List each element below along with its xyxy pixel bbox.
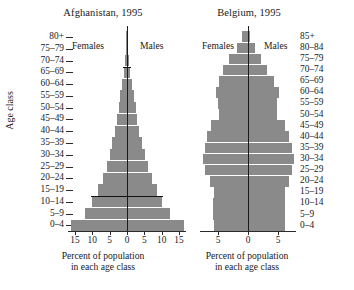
series-label-males-belgium: Males bbox=[264, 41, 287, 51]
x-axis-caption-line1-belgium: Percent of population bbox=[160, 250, 334, 262]
age-class-label: 65–69 bbox=[41, 67, 64, 76]
bar-males bbox=[127, 173, 152, 184]
x-axis-tick-label: 0 bbox=[238, 236, 258, 245]
age-class-label: 60–64 bbox=[41, 79, 64, 88]
bar-males bbox=[248, 98, 277, 109]
bar-males bbox=[127, 114, 137, 125]
bar-males bbox=[127, 126, 139, 137]
y-axis-label: Age class bbox=[4, 81, 15, 141]
bar-males bbox=[248, 209, 285, 220]
bar-females bbox=[107, 161, 127, 172]
bar-females bbox=[213, 198, 248, 209]
bar-females bbox=[119, 102, 127, 113]
age-class-label: 45–49 bbox=[41, 114, 64, 123]
plot-area-belgium: 505 bbox=[200, 26, 296, 232]
bar-females bbox=[219, 76, 248, 87]
series-label-males-afghanistan: Males bbox=[140, 41, 163, 51]
x-axis-caption-line2-belgium: in each age class bbox=[160, 261, 334, 273]
age-class-label: 35–39 bbox=[41, 138, 64, 147]
age-class-label: 30–34 bbox=[300, 154, 323, 163]
bar-males bbox=[248, 143, 292, 154]
age-class-label: 25–29 bbox=[300, 165, 323, 174]
age-class-label: 30–34 bbox=[41, 150, 64, 159]
age-class-label: 15–19 bbox=[41, 185, 64, 194]
age-class-label: 5–9 bbox=[300, 210, 314, 219]
bar-females bbox=[117, 114, 127, 125]
bar-males bbox=[248, 198, 285, 209]
bar-males bbox=[127, 184, 157, 195]
bar-females bbox=[213, 209, 248, 220]
bar-females bbox=[205, 165, 248, 176]
bar-males bbox=[248, 65, 267, 76]
age-class-label: 75–79 bbox=[300, 54, 323, 63]
age-class-label: 85+ bbox=[300, 32, 315, 41]
age-class-label: 5–9 bbox=[50, 209, 64, 218]
bar-females bbox=[218, 98, 248, 109]
bar-males bbox=[248, 187, 285, 198]
chart-title-belgium: Belgium, 1995 bbox=[162, 7, 336, 18]
bar-males bbox=[127, 137, 142, 148]
age-class-label: 20–24 bbox=[300, 176, 323, 185]
bar-females bbox=[115, 126, 127, 137]
bar-females bbox=[98, 184, 127, 195]
chart-panel-afghanistan: Afghanistan, 1995 Age class 0–45–910–141… bbox=[0, 0, 190, 290]
bar-females bbox=[216, 87, 248, 98]
age-class-label: 10–14 bbox=[41, 197, 64, 206]
bar-males bbox=[127, 196, 162, 207]
bar-females bbox=[210, 176, 248, 187]
bar-females bbox=[219, 109, 248, 120]
age-class-label: 55–59 bbox=[300, 98, 323, 107]
age-class-label: 75–79 bbox=[41, 44, 64, 53]
age-class-label: 25–29 bbox=[41, 162, 64, 171]
bar-males bbox=[127, 149, 145, 160]
age-class-label: 60–64 bbox=[300, 87, 323, 96]
bar-females bbox=[110, 149, 127, 160]
age-class-label: 0–4 bbox=[300, 221, 314, 230]
age-class-label: 45–49 bbox=[300, 121, 323, 130]
age-class-label: 55–59 bbox=[41, 91, 64, 100]
age-class-label: 20–24 bbox=[41, 173, 64, 182]
bar-males bbox=[248, 120, 285, 131]
bar-females bbox=[211, 120, 248, 131]
bar-females bbox=[71, 220, 127, 231]
age-class-label: 65–69 bbox=[300, 76, 323, 85]
bar-females bbox=[223, 65, 248, 76]
age-class-label: 10–14 bbox=[300, 198, 323, 207]
age-class-label: 50–54 bbox=[41, 103, 64, 112]
bar-males bbox=[127, 102, 136, 113]
bar-females bbox=[85, 208, 127, 219]
series-label-females-afghanistan: Females bbox=[72, 41, 104, 51]
center-axis-line bbox=[127, 26, 128, 231]
bar-males bbox=[248, 220, 285, 231]
bar-females bbox=[229, 54, 248, 65]
bar-females bbox=[214, 187, 248, 198]
age-class-label: 80–84 bbox=[300, 43, 323, 52]
bar-males bbox=[127, 90, 134, 101]
plot-area-afghanistan: 15105051015 bbox=[68, 26, 186, 232]
age-class-label: 15–19 bbox=[300, 187, 323, 196]
bar-males bbox=[248, 131, 289, 142]
bar-males bbox=[248, 54, 261, 65]
bar-females bbox=[237, 43, 248, 54]
bar-females bbox=[120, 90, 127, 101]
bar-females bbox=[207, 131, 248, 142]
bar-males bbox=[248, 76, 274, 87]
bar-females bbox=[112, 137, 127, 148]
x-axis-tick-label: 5 bbox=[268, 236, 288, 245]
age-class-label: 70–74 bbox=[300, 65, 323, 74]
bar-males bbox=[248, 165, 292, 176]
age-class-label: 50–54 bbox=[300, 110, 323, 119]
bar-males bbox=[248, 87, 279, 98]
population-pyramid-figure: Afghanistan, 1995 Age class 0–45–910–141… bbox=[0, 0, 354, 290]
bar-females bbox=[103, 173, 127, 184]
bar-males bbox=[248, 109, 277, 120]
bar-females bbox=[214, 220, 248, 231]
bar-females bbox=[203, 154, 248, 165]
bar-males bbox=[127, 220, 184, 231]
bar-males bbox=[248, 154, 294, 165]
chart-panel-belgium: Belgium, 1995 505 0–45–910–1415–1920–242… bbox=[180, 0, 354, 290]
age-class-label: 40–44 bbox=[300, 132, 323, 141]
bar-males bbox=[248, 176, 289, 187]
bar-females bbox=[92, 196, 127, 207]
x-axis-tick-label: 5 bbox=[208, 236, 228, 245]
